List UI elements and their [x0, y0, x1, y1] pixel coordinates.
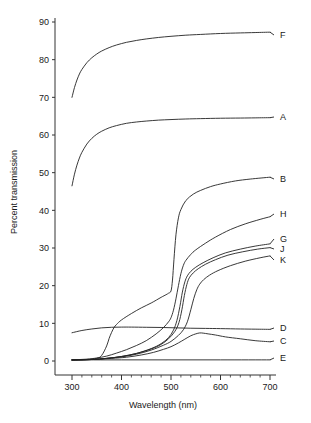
series-label-f: F — [280, 30, 286, 40]
y-axis-tick-label: 10 — [39, 319, 49, 329]
curve-k — [72, 256, 270, 360]
leader-line-e — [270, 358, 274, 360]
leader-line-f — [270, 32, 274, 35]
series-label-k: K — [280, 255, 286, 265]
y-axis-tick-label: 90 — [39, 17, 49, 27]
series-label-g: G — [280, 234, 287, 244]
series-label-b: B — [280, 174, 286, 184]
y-axis-tick-label: 20 — [39, 281, 49, 291]
leader-line-j — [270, 248, 274, 249]
curve-g — [72, 244, 270, 360]
series-label-h: H — [280, 209, 287, 219]
curve-d — [72, 327, 270, 333]
y-axis-tick-label: 60 — [39, 130, 49, 140]
x-axis-tick-label: 700 — [262, 382, 277, 392]
curve-a — [72, 118, 270, 186]
curve-b — [72, 177, 270, 360]
x-axis-tick-label: 600 — [213, 382, 228, 392]
leader-line-a — [270, 117, 274, 118]
leader-line-b — [270, 177, 274, 179]
plot-axes — [55, 18, 276, 375]
spectral-transmission-chart: 0102030405060708090 300400500600700 FABH… — [0, 0, 311, 423]
y-axis-ticks: 0102030405060708090 — [39, 17, 55, 366]
leader-line-d — [270, 328, 274, 329]
curve-j — [72, 248, 270, 360]
curve-f — [72, 32, 270, 97]
x-axis-tick-label: 300 — [64, 382, 79, 392]
series-label-j: J — [280, 244, 285, 254]
y-axis-tick-label: 0 — [44, 356, 49, 366]
transmission-spectra-figure: 0102030405060708090 300400500600700 FABH… — [0, 0, 311, 423]
series-label-c: C — [280, 336, 287, 346]
series-label-d: D — [280, 323, 287, 333]
y-axis-tick-label: 80 — [39, 55, 49, 65]
y-axis-title: Percent transmission — [9, 150, 19, 234]
series-label-e: E — [280, 353, 286, 363]
series-label-a: A — [280, 112, 286, 122]
leader-line-c — [270, 341, 274, 342]
x-axis-tick-label: 400 — [114, 382, 129, 392]
data-curves — [72, 32, 270, 360]
x-axis-ticks: 300400500600700 — [64, 375, 277, 392]
series-labels: FABHGJKDCE — [280, 30, 287, 363]
y-axis-tick-label: 70 — [39, 93, 49, 103]
x-axis-title: Wavelength (nm) — [129, 400, 197, 410]
y-axis-tick-label: 40 — [39, 206, 49, 216]
leader-line-h — [270, 214, 274, 217]
y-axis-tick-label: 30 — [39, 243, 49, 253]
series-label-leaders — [270, 32, 274, 360]
y-axis-tick-label: 50 — [39, 168, 49, 178]
leader-line-g — [270, 239, 274, 244]
x-axis-tick-label: 500 — [163, 382, 178, 392]
leader-line-k — [270, 256, 274, 260]
